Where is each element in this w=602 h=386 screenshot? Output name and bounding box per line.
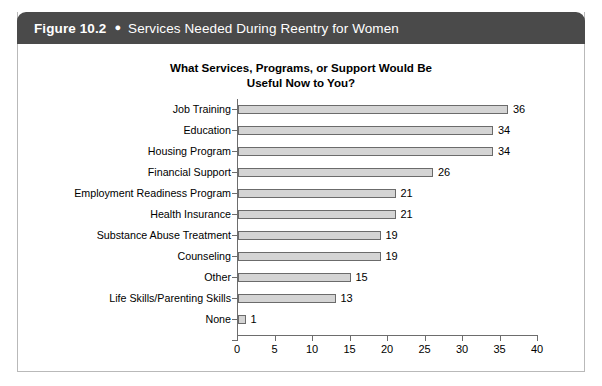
y-axis-tick	[232, 151, 237, 152]
category-label: Health Insurance	[150, 207, 231, 221]
category-label: Housing Program	[148, 144, 231, 158]
x-axis-tick-label: 10	[292, 343, 332, 355]
y-axis-tick	[232, 193, 237, 194]
chart-container: What Services, Programs, or Support Woul…	[17, 44, 585, 372]
category-label: Employment Readiness Program	[74, 186, 231, 200]
bar-row: Employment Readiness Program21	[17, 183, 585, 204]
bar	[238, 273, 351, 282]
bar	[238, 231, 381, 240]
bar	[238, 210, 396, 219]
y-axis-tick	[232, 277, 237, 278]
x-axis-tick-label: 20	[367, 343, 407, 355]
x-axis-tick	[275, 336, 276, 341]
bar-value-label: 21	[401, 207, 413, 221]
bar-row: Other15	[17, 267, 585, 288]
bar-row: Financial Support26	[17, 162, 585, 183]
bar-value-label: 34	[498, 144, 510, 158]
x-axis-tick-label: 40	[517, 343, 557, 355]
x-axis-tick-label: 15	[330, 343, 370, 355]
y-axis-tick	[232, 340, 237, 341]
bar-value-label: 1	[251, 312, 257, 326]
category-label: Financial Support	[148, 165, 231, 179]
bar	[238, 252, 381, 261]
x-axis-tick	[312, 336, 313, 341]
x-axis-tick-label: 0	[217, 343, 257, 355]
category-label: Job Training	[173, 102, 231, 116]
figure-number: Figure 10.2	[34, 21, 106, 36]
category-label: Life Skills/Parenting Skills	[109, 291, 231, 305]
bar	[238, 294, 336, 303]
bar-row: Counseling19	[17, 246, 585, 267]
x-axis-tick	[350, 336, 351, 341]
bar	[238, 189, 396, 198]
bar	[238, 147, 493, 156]
bar-value-label: 19	[386, 228, 398, 242]
bar	[238, 126, 493, 135]
x-axis-tick	[425, 336, 426, 341]
x-axis-tick	[537, 336, 538, 341]
y-axis-tick	[232, 172, 237, 173]
bar-value-label: 13	[341, 291, 353, 305]
y-axis-tick	[232, 214, 237, 215]
bar-value-label: 26	[438, 165, 450, 179]
figure-header: Figure 10.2 ● Services Needed During Ree…	[17, 12, 585, 44]
bar-row: Health Insurance21	[17, 204, 585, 225]
x-axis-tick-label: 25	[405, 343, 445, 355]
category-label: Substance Abuse Treatment	[97, 228, 231, 242]
x-axis-tick-label: 30	[442, 343, 482, 355]
bar-row: None1	[17, 309, 585, 330]
bar-row: Substance Abuse Treatment19	[17, 225, 585, 246]
bar	[238, 105, 508, 114]
x-axis-tick-label: 35	[480, 343, 520, 355]
bar-value-label: 19	[386, 249, 398, 263]
category-label: Education	[183, 123, 231, 137]
y-axis-tick	[232, 256, 237, 257]
bar-value-label: 15	[356, 270, 368, 284]
x-axis-tick	[237, 336, 238, 341]
bar-row: Job Training36	[17, 99, 585, 120]
category-label: None	[205, 312, 231, 326]
bullet-icon: ●	[114, 22, 121, 33]
x-axis-tick-label: 5	[255, 343, 295, 355]
y-axis-tick	[232, 235, 237, 236]
y-axis-tick	[232, 298, 237, 299]
x-axis-tick	[500, 336, 501, 341]
bar	[238, 315, 246, 324]
y-axis-tick	[232, 319, 237, 320]
x-axis-tick	[462, 336, 463, 341]
bar-row: Education34	[17, 120, 585, 141]
bar-row: Life Skills/Parenting Skills13	[17, 288, 585, 309]
bar-value-label: 34	[498, 123, 510, 137]
category-label: Other	[204, 270, 231, 284]
bar-row: Housing Program34	[17, 141, 585, 162]
y-axis-tick	[232, 109, 237, 110]
x-axis-tick	[387, 336, 388, 341]
figure-caption: Services Needed During Reentry for Women	[128, 21, 399, 36]
bar-value-label: 21	[401, 186, 413, 200]
y-axis-tick	[232, 130, 237, 131]
bar-chart-plot: 0510152025303540Job Training36Education3…	[17, 44, 585, 372]
bar	[238, 168, 433, 177]
category-label: Counseling	[178, 249, 231, 263]
bar-value-label: 36	[513, 102, 525, 116]
